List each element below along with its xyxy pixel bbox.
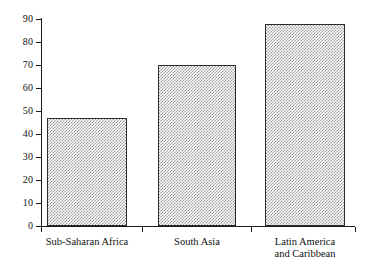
y-axis-tick-label: 90 (0, 14, 33, 24)
x-axis-tick (251, 227, 252, 232)
y-axis-tick (36, 203, 41, 204)
bar (158, 65, 236, 226)
y-axis-tick (36, 65, 41, 66)
y-axis-tick (36, 134, 41, 135)
bar (47, 118, 127, 226)
y-axis-tick (36, 88, 41, 89)
y-axis-tick-label: 30 (0, 152, 33, 162)
bar (265, 24, 345, 226)
y-axis-tick (36, 111, 41, 112)
y-axis-line (41, 18, 42, 227)
x-axis-category-label: Sub-Saharan Africa (25, 236, 149, 248)
x-axis-tick (142, 227, 143, 232)
y-axis-tick-label: 60 (0, 83, 33, 93)
x-axis-tick (41, 227, 42, 232)
x-axis-category-label: Latin America and Caribbean (243, 236, 367, 259)
y-axis-tick-label: 10 (0, 198, 33, 208)
y-axis-tick-label: 0 (0, 221, 33, 231)
y-axis-tick-label: 40 (0, 129, 33, 139)
y-axis-tick-label: 20 (0, 175, 33, 185)
y-axis-tick-label: 80 (0, 37, 33, 47)
y-axis-tick (36, 19, 41, 20)
x-axis-line (41, 226, 355, 227)
y-axis-tick (36, 180, 41, 181)
y-axis-tick (36, 42, 41, 43)
x-axis-category-label: South Asia (136, 236, 258, 248)
y-axis-tick-label: 70 (0, 60, 33, 70)
y-axis-tick-label: 50 (0, 106, 33, 116)
bar-chart-figure: 0102030405060708090 Sub-Saharan AfricaSo… (0, 0, 376, 269)
y-axis-tick (36, 157, 41, 158)
x-axis-tick (355, 227, 356, 232)
